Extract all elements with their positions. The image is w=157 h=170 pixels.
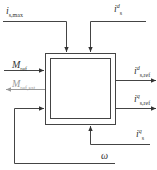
label-is-ref-q: iqs,ref [134,93,150,106]
label-is-ref-d: ids,ref [134,65,150,78]
label-is-q: iqs [136,128,144,141]
label-omega: ω [101,151,108,161]
label-is-max: is,max [6,6,23,18]
label-m-ref: Mref [12,60,27,72]
block-outer-frame [46,54,116,125]
label-m-ref-sat: Mref,sat [12,79,35,91]
block-inner-frame [51,59,111,119]
block-diagram: is,max ids Mref Mref,sat ids,ref iqs,ref… [0,0,157,170]
label-is-d: ids [114,3,122,16]
